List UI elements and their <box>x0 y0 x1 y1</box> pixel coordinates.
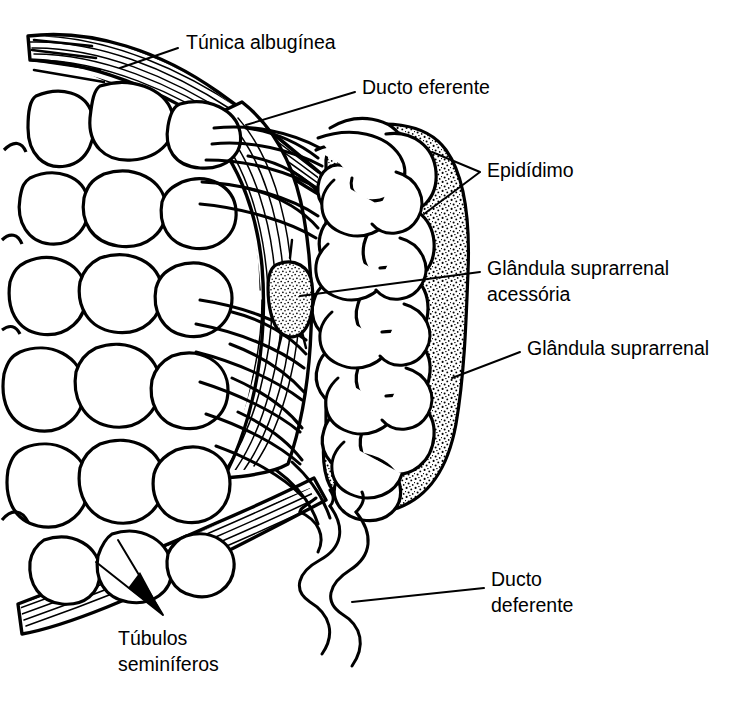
leader-ducto-eferente <box>246 92 355 125</box>
vas-deferens <box>299 490 368 666</box>
label-ducto-deferente-line1: Ducto <box>491 568 542 590</box>
label-tubulos-seminiferos-line2: seminíferos <box>118 653 219 675</box>
label-ducto-deferente-line2: deferente <box>491 594 573 616</box>
label-epididimo: Epidídimo <box>487 159 574 181</box>
epididymis-coil <box>312 119 436 521</box>
label-glandula-suprarrenal-acessoria-line1: Glândula suprarrenal <box>487 257 669 279</box>
diagram-canvas: Túnica albugínea Ducto eferente Epidídim… <box>0 0 749 706</box>
label-ducto-eferente: Ducto eferente <box>362 76 490 98</box>
label-tubulos-seminiferos-line1: Túbulos <box>118 627 188 649</box>
leader-ducto-deferente <box>352 588 484 602</box>
anatomical-figure: Túnica albugínea Ducto eferente Epidídim… <box>0 0 749 706</box>
label-tunica-albuginea: Túnica albugínea <box>186 31 336 53</box>
label-glandula-suprarrenal: Glândula suprarrenal <box>527 337 709 359</box>
label-glandula-suprarrenal-acessoria-line2: acessória <box>487 283 571 305</box>
